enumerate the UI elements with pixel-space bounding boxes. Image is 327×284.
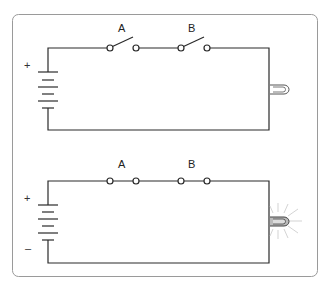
battery-bottom (38, 205, 58, 240)
switch-b-open (178, 37, 210, 51)
switch-a-open (107, 37, 139, 51)
wire-loop (48, 181, 269, 263)
bulb-lit-icon (270, 217, 289, 226)
battery-positive-label-bottom: + (24, 192, 30, 204)
bulb-off-icon (270, 85, 289, 94)
battery-positive-label-top: + (24, 59, 30, 71)
diagram-frame (13, 15, 318, 277)
switch-a-label-top: A (118, 22, 126, 34)
circuit-closed (38, 178, 302, 263)
wire-top-left (48, 48, 107, 72)
wire-top-right (48, 48, 269, 130)
circuit-diagram: A B + (0, 0, 327, 284)
switch-b-label-top: B (188, 22, 195, 34)
switch-b-label-bottom: B (188, 158, 195, 170)
battery-top (38, 72, 58, 108)
circuit-open (38, 37, 289, 130)
switch-a-label-bottom: A (118, 158, 126, 170)
battery-negative-label-bottom: – (25, 242, 32, 254)
